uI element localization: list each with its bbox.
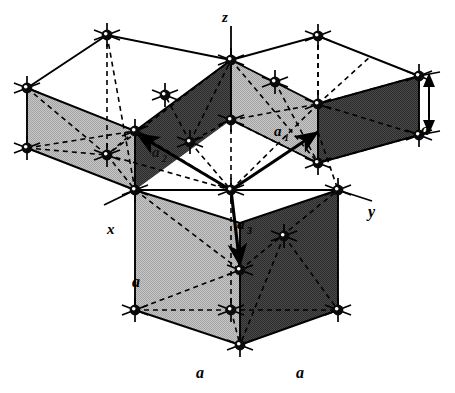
vector-label-a2-sub: 2 bbox=[161, 153, 167, 164]
right-cube-faces bbox=[231, 36, 419, 163]
left-cube-faces bbox=[27, 35, 231, 190]
axis-label-y: y bbox=[366, 203, 376, 221]
vector-label-a1-base: a bbox=[274, 123, 282, 139]
dimension-label-a-bottom-right: a bbox=[296, 364, 304, 381]
dimension-label-a-right: a bbox=[421, 121, 429, 138]
axis-label-x: x bbox=[106, 221, 115, 237]
vector-label-a2-base: a bbox=[152, 144, 160, 160]
vector-label-a3-base: a bbox=[237, 216, 245, 232]
axis-label-z: z bbox=[221, 9, 228, 25]
figure-canvas: z x y a 1 a 2 a 3 a a a a bbox=[0, 0, 455, 393]
lattice-diagram-svg: z x y a 1 a 2 a 3 a a a a bbox=[0, 0, 455, 393]
vector-label-a1-sub: 1 bbox=[284, 132, 289, 143]
vector-label-a3-sub: 3 bbox=[246, 225, 252, 236]
dimension-label-a-bottom-left: a bbox=[196, 364, 204, 381]
dimension-label-a-left: a bbox=[132, 273, 140, 290]
